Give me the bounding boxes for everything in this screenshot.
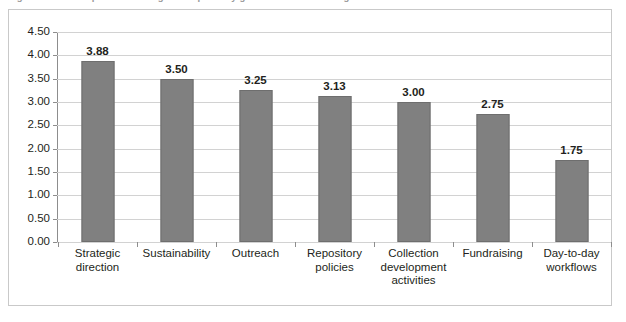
- bar-value-label: 1.75: [560, 145, 582, 157]
- y-axis-tick-label: 2.50: [28, 120, 50, 132]
- category-label-line: Sustainability: [138, 247, 215, 261]
- bar-value-label: 3.13: [323, 81, 345, 93]
- category-label-line: Collection: [375, 247, 452, 261]
- bar[interactable]: [239, 90, 272, 242]
- bar-value-label: 3.88: [86, 46, 108, 58]
- category-label: Repositorypolicies: [295, 247, 374, 274]
- bar[interactable]: [555, 160, 588, 242]
- category-label-line: Strategic direction: [59, 247, 136, 274]
- bar-value-label: 3.00: [402, 87, 424, 99]
- category-label-line: Day-to-day: [533, 247, 610, 261]
- bar[interactable]: [318, 96, 351, 242]
- category-label-line: policies: [296, 261, 373, 275]
- y-axis-tick-mark: [53, 195, 57, 196]
- bar-cell: 3.00: [374, 32, 453, 242]
- y-axis-tick-mark: [53, 242, 57, 243]
- y-axis-tick-label: 0.50: [28, 213, 50, 225]
- category-label: Fundraising: [453, 247, 532, 261]
- category-label-line: Outreach: [217, 247, 294, 261]
- category-label: Day-to-dayworkflows: [532, 247, 611, 274]
- y-axis-tick-label: 4.50: [28, 26, 50, 38]
- category-label-line: Fundraising: [454, 247, 531, 261]
- y-axis-tick-label: 1.50: [28, 166, 50, 178]
- gridline: [57, 242, 611, 243]
- category-label-line: activities: [375, 274, 452, 288]
- category-label-line: development: [375, 261, 452, 275]
- figure-caption-clipped: Figure 4. Mean importance ratings for re…: [0, 0, 626, 7]
- bar-cell: 2.75: [453, 32, 532, 242]
- bar-cell: 1.75: [532, 32, 611, 242]
- category-label: Outreach: [216, 247, 295, 261]
- y-axis-tick-label: 2.00: [28, 143, 50, 155]
- category-axis-labels: Strategic directionSustainabilityOutreac…: [58, 247, 611, 288]
- category-label: Strategic direction: [58, 247, 137, 274]
- bar[interactable]: [81, 61, 114, 242]
- chart-frame: 4.504.003.503.002.502.001.501.000.500.00…: [8, 9, 612, 306]
- bar-cell: 3.50: [137, 32, 216, 242]
- y-axis-tick-mark: [53, 55, 57, 56]
- plot-area: 4.504.003.503.002.502.001.501.000.500.00…: [57, 32, 611, 242]
- bar[interactable]: [160, 79, 193, 242]
- category-label-line: Repository: [296, 247, 373, 261]
- bar-cell: 3.25: [216, 32, 295, 242]
- figure-caption-text: Figure 4. Mean importance ratings for re…: [8, 0, 424, 2]
- y-axis-tick-label: 1.00: [28, 190, 50, 202]
- bar[interactable]: [397, 102, 430, 242]
- category-label: Collectiondevelopmentactivities: [374, 247, 453, 288]
- y-axis-tick-label: 4.00: [28, 50, 50, 62]
- y-axis-tick-mark: [53, 149, 57, 150]
- y-axis-tick-label: 3.50: [28, 73, 50, 85]
- y-axis-tick-mark: [53, 172, 57, 173]
- bar-value-label: 3.25: [244, 75, 266, 87]
- y-axis-tick-mark: [53, 102, 57, 103]
- category-label: Sustainability: [137, 247, 216, 261]
- x-axis-tick-mark: [611, 242, 612, 247]
- y-axis-tick-label: 0.00: [28, 236, 50, 248]
- bar[interactable]: [476, 114, 509, 242]
- bar-series: 3.883.503.253.133.002.751.75: [58, 32, 611, 242]
- y-axis-tick-mark: [53, 125, 57, 126]
- y-axis-tick-mark: [53, 219, 57, 220]
- bar-value-label: 3.50: [165, 64, 187, 76]
- bar-value-label: 2.75: [481, 99, 503, 111]
- y-axis-tick-mark: [53, 79, 57, 80]
- bar-cell: 3.13: [295, 32, 374, 242]
- y-axis-tick-mark: [53, 32, 57, 33]
- category-label-line: workflows: [533, 261, 610, 275]
- y-axis-tick-label: 3.00: [28, 96, 50, 108]
- bar-cell: 3.88: [58, 32, 137, 242]
